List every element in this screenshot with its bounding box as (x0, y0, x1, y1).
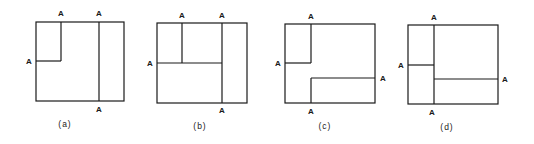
point-label-a: A (179, 11, 185, 20)
panel-caption: (a) (58, 119, 71, 129)
panel-c: AAAA(c) (275, 12, 386, 131)
point-label-a: A (502, 75, 508, 84)
point-label-a: A (26, 57, 32, 66)
point-label-a: A (398, 61, 404, 70)
diagram-canvas: AAAA(a)AAAA(b)AAAA(c)AAAA(d) (0, 0, 534, 144)
panel-a: AAAA(a) (26, 9, 124, 129)
panel-d: AAAA(d) (398, 13, 508, 132)
panel-b: AAAA(b) (147, 11, 247, 131)
point-label-a: A (96, 105, 102, 114)
panel-caption: (d) (440, 122, 453, 132)
point-label-a: A (308, 12, 314, 21)
point-label-a: A (275, 59, 281, 68)
point-label-a: A (380, 74, 386, 83)
panel-caption: (b) (193, 121, 206, 131)
point-label-a: A (147, 59, 153, 68)
point-label-a: A (308, 107, 314, 116)
point-label-a: A (429, 108, 435, 117)
point-label-a: A (96, 9, 102, 18)
point-label-a: A (219, 11, 225, 20)
point-label-a: A (58, 9, 64, 18)
partition-diagrams: AAAA(a)AAAA(b)AAAA(c)AAAA(d) (0, 0, 534, 144)
panel-caption: (c) (319, 121, 332, 131)
point-label-a: A (219, 106, 225, 115)
point-label-a: A (431, 13, 437, 22)
